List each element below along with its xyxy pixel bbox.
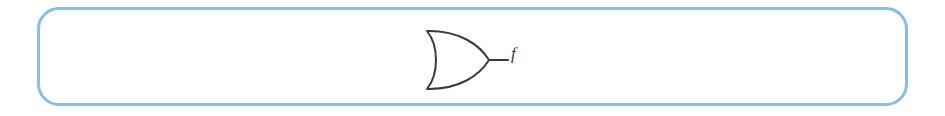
logic-gate-diagram: f bbox=[0, 0, 945, 116]
or-gate-outline bbox=[427, 31, 489, 89]
output-label-f: f bbox=[511, 45, 516, 62]
figure-canvas: f bbox=[0, 0, 945, 116]
or-gate-symbol bbox=[415, 28, 535, 92]
